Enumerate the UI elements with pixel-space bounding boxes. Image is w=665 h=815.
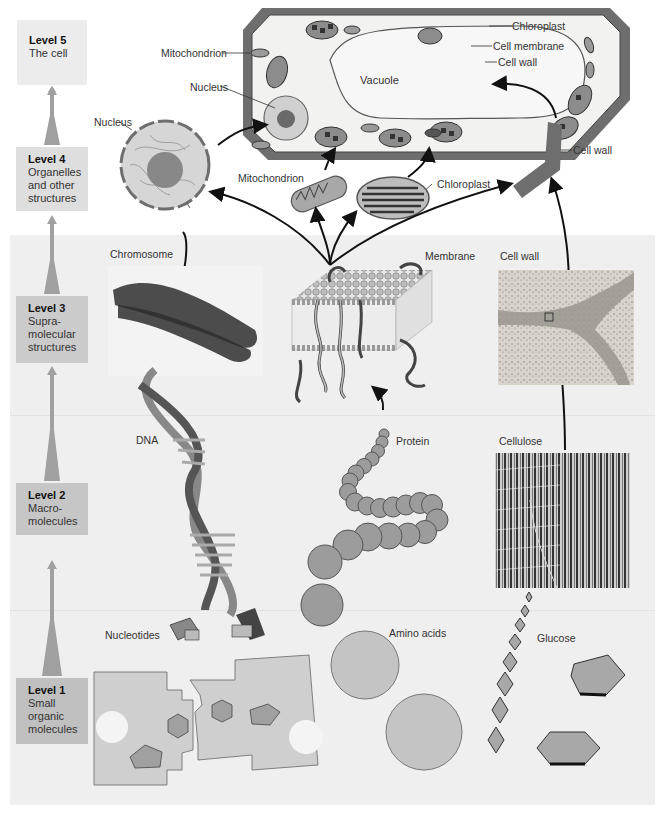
amino-acid-molecules [331,631,462,770]
level-4-box: Level 4 Organelles and other structures [16,147,88,211]
label-cell-wall: Cell wall [498,56,537,68]
nucleotide-molecules [94,655,323,785]
label-protein: Protein [396,435,429,447]
level-3-title: Level 3 [28,302,88,315]
level-4-title: Level 4 [28,153,88,166]
level-3-desc-line: molecular [28,328,88,341]
chromosome-image [108,266,263,376]
level-1-desc-line: organic [28,710,88,723]
label-dna: DNA [136,434,158,446]
label-chloroplast: Chloroplast [437,178,490,190]
level-1-box: Level 1 Small organic molecules [16,678,88,744]
label-cell-wall-micrograph: Cell wall [500,250,539,262]
level-1-desc-line: Small [28,697,88,710]
glucose-chain [488,592,532,753]
label-nucleus: Nucleus [94,116,132,128]
level-3-desc-line: Supra- [28,315,88,328]
label-vacuole: Vacuole [360,74,399,86]
level-4-desc-line: structures [28,192,88,205]
cellulose-micrograph [495,453,630,590]
protein-chain [301,429,448,626]
level-4-desc-line: and other [28,179,88,192]
level-2-desc-line: molecules [28,515,88,528]
plant-cell [243,8,630,160]
level-1-title: Level 1 [28,684,88,697]
level-3-desc-line: structures [28,341,88,354]
level-2-title: Level 2 [28,489,88,502]
level-2-desc-line: Macro- [28,502,88,515]
glucose-molecules [537,655,625,764]
level-3-box: Level 3 Supra- molecular structures [16,296,88,363]
label-cell-chloroplast: Chloroplast [512,20,565,32]
label-membrane: Membrane [425,250,475,262]
label-mitochondrion: Mitochondrion [238,172,304,184]
level-4-desc-line: Organelles [28,166,88,179]
label-cell-wall-fragment: Cell wall [573,144,612,156]
label-cell-membrane: Cell membrane [493,40,564,52]
dna-helix [140,370,265,640]
level-2-box: Level 2 Macro- molecules [16,483,88,535]
label-cell-mitochondrion: Mitochondrion [161,47,227,59]
level-5-title: Level 5 [29,34,87,47]
level-5-box: Level 5 The cell [17,20,87,85]
label-nucleotides: Nucleotides [105,629,160,641]
label-amino-acids: Amino acids [389,627,446,639]
level-1-desc-line: molecules [28,723,88,736]
level-5-desc: The cell [29,47,68,59]
label-chromosome: Chromosome [110,248,173,260]
label-glucose: Glucose [537,632,576,644]
cell-wall-micrograph [498,270,634,385]
membrane-illustration [292,264,432,402]
label-cellulose: Cellulose [499,435,542,447]
label-cell-nucleus: Nucleus [190,81,228,93]
